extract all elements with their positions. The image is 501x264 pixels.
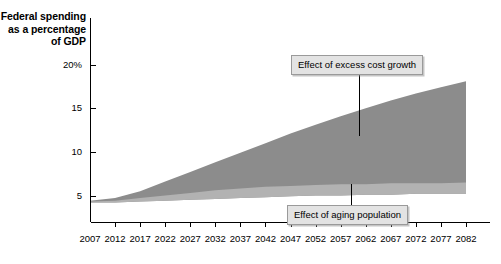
annotation-excess-cost-growth: Effect of excess cost growth [291,55,423,75]
y-axis-tick-label: 20% [44,59,82,70]
annotation-aging-population: Effect of aging population [287,205,408,225]
y-axis-tick-label: 10 [44,146,82,157]
chart-plot-area [0,0,501,264]
area-bands [90,81,466,202]
x-axis-tick-label: 2082 [451,233,481,244]
y-axis-tick-label: 15 [44,102,82,113]
chart-container: Federal spending as a percentage of GDP … [0,0,501,264]
y-axis-tick-label: 5 [44,190,82,201]
